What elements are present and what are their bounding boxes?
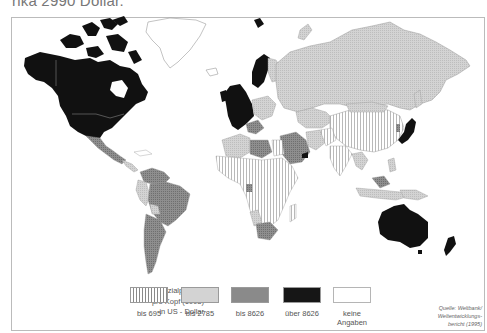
region-india — [330, 146, 352, 176]
legend-label-angaben: Angaben — [327, 318, 377, 327]
region-new-guinea — [400, 190, 428, 200]
source-line-1: Quelle: Weltbank/ — [398, 304, 482, 312]
legend-label-bis-695: bis 695 — [124, 309, 174, 318]
region-central-asia — [296, 108, 334, 128]
region-novaya-zemlya — [298, 24, 312, 40]
legend-label-bis-2785: bis 2785 — [175, 309, 225, 318]
region-australia — [378, 204, 428, 248]
region-eastern-europe — [252, 96, 276, 120]
legend-swatch-keine-angaben — [333, 287, 371, 303]
region-southern-europe — [246, 120, 264, 134]
region-philippines — [388, 158, 396, 172]
source-line-2: Weltentwicklungs- — [398, 312, 482, 320]
region-north-africa-west — [222, 134, 250, 158]
source-line-3: bericht (1995) — [398, 320, 482, 328]
world-map — [0, 0, 487, 333]
legend-label-bis-8626: bis 8626 — [225, 309, 275, 318]
region-middle-east — [280, 132, 310, 164]
legend-label-keine-angaben: keine Angaben — [327, 309, 377, 327]
region-central-america — [122, 160, 138, 172]
source-note: Quelle: Weltbank/ Weltentwicklungs- beri… — [398, 304, 482, 328]
legend-swatch-bis-2785 — [181, 287, 219, 303]
region-libya — [250, 140, 272, 158]
legend-swatch-bis-695 — [130, 287, 168, 303]
region-mexico — [86, 136, 126, 164]
region-egypt — [272, 140, 284, 156]
legend-label-ueber-8626: über 8626 — [277, 309, 327, 318]
region-caribbean — [134, 150, 152, 156]
region-greenland — [146, 18, 206, 68]
region-madagascar — [290, 204, 296, 222]
legend-swatch-ueber-8626 — [283, 287, 321, 303]
region-southeast-asia — [352, 152, 368, 170]
legend-label-keine: keine — [327, 309, 377, 318]
region-new-zealand — [444, 236, 456, 256]
region-gabon — [246, 184, 252, 192]
region-china — [330, 108, 404, 152]
region-south-africa — [256, 222, 278, 240]
region-korea — [396, 124, 400, 132]
region-north-america — [24, 16, 148, 140]
region-south-america-west — [136, 180, 150, 206]
legend-swatch-bis-8626 — [231, 287, 269, 303]
region-iceland — [206, 68, 218, 76]
region-tasmania — [418, 250, 422, 254]
region-malaysia — [372, 176, 390, 188]
